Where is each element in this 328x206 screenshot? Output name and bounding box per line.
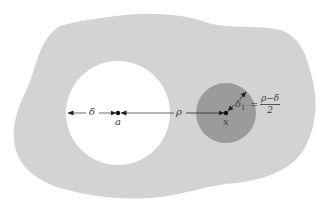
fraction-denominator: 2 [267,105,273,115]
delta1-subscript: 1 [241,104,245,112]
diagram-canvas: δ a ρ x δ1 = ρ−δ 2 [0,0,328,206]
equals-sign: = [250,100,258,110]
point-a [116,111,120,115]
fraction-numerator: ρ−δ [260,94,280,105]
delta1-label: δ1 [235,99,246,112]
delta-label: δ [89,107,95,117]
point-x-label: x [223,117,229,127]
point-a-label: a [115,117,121,127]
rho-label: ρ [176,107,182,117]
point-x [224,111,228,115]
fraction: ρ−δ 2 [260,94,280,115]
